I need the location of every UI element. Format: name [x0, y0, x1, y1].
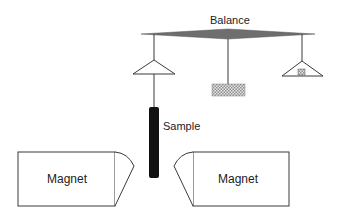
right-pan — [282, 34, 323, 76]
small-weight — [298, 69, 305, 75]
sample-label: Sample — [163, 121, 200, 132]
diagram-canvas: Balance Sample Magnet Magnet — [0, 0, 343, 220]
left-pan — [133, 34, 175, 107]
magnet-right-label: Magnet — [218, 173, 258, 185]
diagram-svg — [0, 0, 343, 220]
balance-label: Balance — [210, 15, 250, 26]
sample-cylinder — [149, 107, 159, 178]
balance-beam — [141, 29, 315, 39]
magnet-left-label: Magnet — [47, 173, 87, 185]
center-counterweight — [212, 39, 245, 96]
